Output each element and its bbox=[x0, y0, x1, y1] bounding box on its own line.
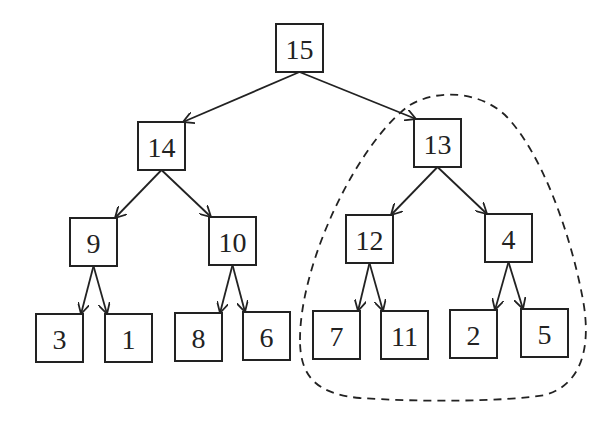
tree-node-12: 12 bbox=[346, 215, 393, 263]
node-label: 11 bbox=[391, 321, 418, 352]
edge-arrow-4-to-2 bbox=[495, 262, 509, 310]
node-label: 5 bbox=[538, 319, 552, 350]
node-label: 1 bbox=[122, 324, 136, 355]
node-label: 13 bbox=[424, 129, 452, 160]
tree-node-4: 4 bbox=[485, 214, 532, 262]
node-label: 9 bbox=[87, 228, 101, 259]
edge-arrow-13-to-12 bbox=[391, 167, 438, 215]
edge-arrow-15-to-14 bbox=[183, 72, 300, 122]
tree-node-3: 3 bbox=[36, 314, 83, 362]
edge-arrow-9-to-3 bbox=[81, 266, 94, 314]
edge-arrow-10-to-6 bbox=[233, 265, 246, 312]
tree-node-13: 13 bbox=[414, 119, 461, 167]
tree-node-2: 2 bbox=[450, 310, 497, 358]
tree-node-14: 14 bbox=[138, 122, 185, 170]
edge-arrow-12-to-7 bbox=[358, 263, 370, 311]
edge-arrow-13-to-4 bbox=[438, 167, 488, 214]
edge-arrow-12-to-11 bbox=[370, 263, 384, 311]
node-label: 7 bbox=[330, 321, 344, 352]
edge-arrow-14-to-10 bbox=[162, 170, 212, 217]
node-label: 6 bbox=[260, 322, 274, 353]
node-label: 10 bbox=[219, 227, 247, 258]
tree-node-10: 10 bbox=[209, 217, 256, 265]
edge-arrow-4-to-5 bbox=[509, 262, 524, 309]
node-label: 3 bbox=[53, 324, 67, 355]
node-label: 2 bbox=[467, 320, 481, 351]
tree-node-6: 6 bbox=[243, 312, 290, 360]
node-label: 15 bbox=[286, 34, 314, 65]
node-label: 8 bbox=[192, 323, 206, 354]
tree-node-1: 1 bbox=[105, 314, 152, 362]
edge-arrow-10-to-8 bbox=[220, 265, 233, 313]
edge-arrow-15-to-13 bbox=[300, 72, 417, 119]
node-label: 12 bbox=[356, 225, 384, 256]
node-label: 4 bbox=[502, 224, 516, 255]
edge-arrow-14-to-9 bbox=[115, 170, 162, 218]
heap-tree-diagram: 151413910124318671125 bbox=[0, 0, 610, 424]
edge-arrow-9-to-1 bbox=[94, 266, 108, 314]
tree-node-8: 8 bbox=[175, 313, 222, 361]
tree-node-7: 7 bbox=[313, 311, 360, 359]
node-label: 14 bbox=[148, 132, 176, 163]
tree-node-9: 9 bbox=[70, 218, 117, 266]
tree-node-11: 11 bbox=[381, 311, 428, 359]
tree-node-15: 15 bbox=[276, 24, 323, 72]
tree-node-5: 5 bbox=[521, 309, 568, 357]
